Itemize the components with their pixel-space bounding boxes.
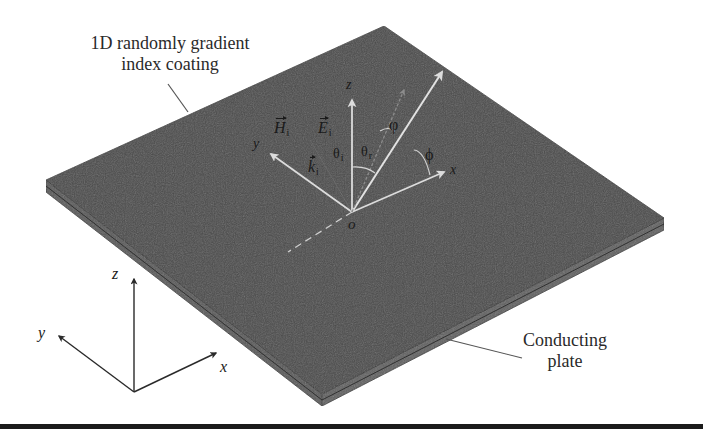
theta-i-label: θi — [333, 147, 344, 163]
theta-i-subscript: i — [341, 152, 344, 163]
theta-r-subscript: r — [369, 150, 372, 161]
plate-label: Conducting plate — [510, 330, 620, 372]
e-field-subscript: i — [329, 127, 332, 138]
origin-label: o — [348, 217, 356, 232]
k-vector-subscript: i — [316, 166, 319, 177]
plate-z-label: z — [346, 78, 351, 92]
e-field-label: Ei — [318, 120, 332, 138]
e-field-symbol: E — [318, 120, 328, 136]
theta-r-label: θr — [361, 145, 372, 161]
ref-y-label: y — [38, 325, 45, 341]
plate-label-line1: Conducting — [510, 330, 620, 351]
varphi-label: φ — [389, 117, 398, 133]
ref-x-axis-arrow — [134, 353, 216, 392]
coating-label: 1D randomly gradient index coating — [70, 33, 270, 75]
theta-r-symbol: θ — [361, 144, 368, 159]
plate-x-label: x — [450, 163, 456, 177]
ref-x-label: x — [220, 359, 227, 375]
k-vector-symbol: k — [308, 159, 315, 175]
bottom-border-bar — [0, 424, 703, 429]
h-field-label: Hi — [274, 120, 289, 138]
plate-y-label: y — [253, 137, 259, 151]
plate-label-line2: plate — [510, 351, 620, 372]
theta-i-symbol: θ — [333, 146, 340, 161]
k-vector-label: ki — [308, 159, 319, 177]
h-field-symbol: H — [274, 120, 286, 136]
coating-label-line2: index coating — [70, 54, 270, 75]
coating-leader-line — [168, 84, 188, 112]
ref-y-axis-arrow — [59, 336, 134, 392]
phi-label: ϕ — [425, 147, 433, 163]
coating-label-line1: 1D randomly gradient — [70, 33, 270, 54]
h-field-subscript: i — [287, 127, 290, 138]
ref-z-label: z — [112, 266, 118, 282]
figure-canvas: 1D randomly gradient index coating Condu… — [0, 0, 703, 429]
